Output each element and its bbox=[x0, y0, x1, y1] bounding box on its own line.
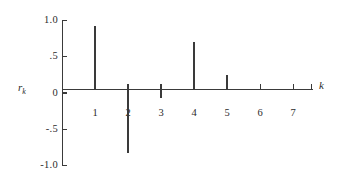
x-tick-label: 6 bbox=[249, 107, 271, 118]
x-tick-mark bbox=[160, 84, 161, 90]
x-tick-label: 4 bbox=[183, 107, 205, 118]
x-tick-mark bbox=[127, 84, 128, 90]
stem-bar bbox=[127, 89, 129, 153]
x-tick-label: 7 bbox=[282, 107, 304, 118]
stem-bar bbox=[94, 26, 96, 90]
y-tick-label: -1.0 bbox=[12, 160, 58, 171]
x-axis-line bbox=[62, 89, 313, 90]
x-tick-mark bbox=[293, 84, 294, 90]
y-tick-label: .5 bbox=[12, 51, 58, 62]
stem-bar bbox=[160, 89, 162, 98]
y-axis-title: rk bbox=[18, 82, 26, 97]
y-tick-mark bbox=[62, 165, 67, 166]
x-tick-label: 3 bbox=[150, 107, 172, 118]
x-tick-mark bbox=[260, 84, 261, 90]
y-tick-mark bbox=[62, 20, 67, 21]
correlogram-chart: 1.0.50-.5-1.0 1234567 rk k bbox=[0, 0, 356, 182]
x-axis-end-cap bbox=[311, 84, 312, 89]
y-tick-label-wrap: 1.0 bbox=[0, 15, 58, 26]
x-axis-title: k bbox=[319, 80, 324, 91]
stem-bar bbox=[193, 42, 195, 89]
y-tick-label-wrap: 0 bbox=[0, 88, 58, 99]
x-tick-label: 5 bbox=[216, 107, 238, 118]
x-tick-label: 1 bbox=[84, 107, 106, 118]
y-tick-label-wrap: -1.0 bbox=[0, 160, 58, 171]
y-tick-mark bbox=[62, 92, 67, 93]
y-axis-title-subscript: k bbox=[22, 87, 26, 96]
y-tick-label-wrap: -.5 bbox=[0, 124, 58, 135]
y-tick-label: 1.0 bbox=[12, 15, 58, 26]
stem-bar bbox=[226, 75, 228, 89]
y-tick-label: -.5 bbox=[12, 124, 58, 135]
y-tick-label-wrap: .5 bbox=[0, 51, 58, 62]
y-tick-mark bbox=[62, 56, 67, 57]
y-tick-mark bbox=[62, 129, 67, 130]
